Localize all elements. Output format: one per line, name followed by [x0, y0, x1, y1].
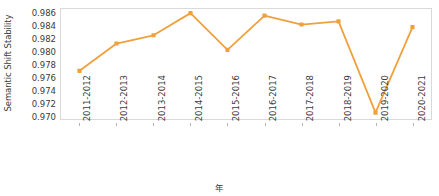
- data-point-marker: [225, 48, 229, 52]
- data-point-marker: [188, 11, 192, 15]
- y-axis-tick-labels: 0.9700.9720.9740.9760.9780.9800.9820.984…: [18, 0, 58, 126]
- y-axis-tick-label: 0.972: [32, 99, 56, 109]
- y-axis-tick-label: 0.978: [32, 60, 56, 70]
- x-axis-tick-label: 2015-2016: [231, 75, 241, 127]
- y-axis-tick-label: 0.974: [32, 86, 56, 96]
- data-point-marker: [151, 33, 155, 37]
- series-line-group: [80, 13, 413, 113]
- data-point-marker: [77, 69, 81, 73]
- plot-area: [60, 8, 432, 120]
- chart-figure: Semantic Shift Stability 0.9700.9720.974…: [0, 0, 439, 196]
- x-axis-tick-label: 2019-2020: [380, 75, 390, 127]
- data-point-marker: [336, 19, 340, 23]
- x-axis-tick-mark: [227, 123, 228, 126]
- x-axis-tick-mark: [413, 123, 414, 126]
- x-axis-tick-label: 2016-2017: [268, 75, 278, 127]
- x-axis-tick-label: 2011-2012: [82, 75, 92, 127]
- x-axis-tick-label: 2018-2019: [343, 75, 353, 127]
- y-axis-title-text: Semantic Shift Stability: [3, 15, 13, 112]
- x-axis-tick-label: 2014-2015: [194, 75, 204, 127]
- x-axis-tick-mark: [265, 123, 266, 126]
- x-axis-tick-mark: [153, 123, 154, 126]
- x-axis-tick-mark: [190, 123, 191, 126]
- x-axis-tick-mark: [302, 123, 303, 126]
- x-axis-tick-mark: [116, 123, 117, 126]
- data-point-marker: [262, 14, 266, 18]
- x-axis-tick-mark: [79, 123, 80, 126]
- y-axis-title: Semantic Shift Stability: [0, 0, 16, 126]
- y-axis-tick-label: 0.984: [32, 21, 56, 31]
- x-axis-tick-label: 2012-2013: [119, 75, 129, 127]
- x-axis-tick-label: 2017-2018: [305, 75, 315, 127]
- x-axis-tick-mark: [376, 123, 377, 126]
- x-axis-tick-label: 2020-2021: [417, 75, 427, 127]
- x-axis-title: 年: [0, 181, 439, 193]
- y-axis-tick-label: 0.980: [32, 47, 56, 57]
- series-line: [80, 13, 413, 113]
- y-axis-tick-label: 0.982: [32, 34, 56, 44]
- data-point-marker: [410, 25, 414, 29]
- data-point-marker: [114, 41, 118, 45]
- y-axis-tick-label: 0.986: [32, 8, 56, 18]
- y-axis-tick-label: 0.976: [32, 73, 56, 83]
- data-point-marker: [373, 111, 377, 115]
- y-axis-tick-label: 0.970: [32, 112, 56, 122]
- x-axis-tick-mark: [339, 123, 340, 126]
- x-axis-tick-labels: 2011-20122012-20132013-20142014-20152015…: [60, 121, 432, 179]
- data-point-marker: [299, 22, 303, 26]
- x-axis-tick-label: 2013-2014: [157, 75, 167, 127]
- line-chart-svg: [61, 9, 431, 119]
